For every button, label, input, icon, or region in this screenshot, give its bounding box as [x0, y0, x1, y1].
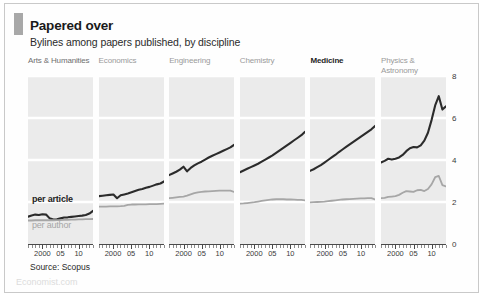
axis-tick — [28, 245, 29, 248]
axis-tick — [205, 245, 206, 248]
axis-tick — [39, 245, 40, 248]
axis-tick — [234, 245, 235, 248]
x-axis: 20000510 — [169, 244, 234, 264]
y-axis: 02468 — [449, 56, 479, 266]
axis-tick — [354, 245, 355, 248]
axis-tick — [153, 245, 154, 248]
axis-tick — [173, 245, 174, 248]
x-tick-label: 10 — [216, 249, 224, 258]
x-tick-label: 10 — [357, 249, 365, 258]
panel-engineering: Engineering20000510 — [169, 56, 234, 244]
axis-tick — [243, 245, 244, 248]
axis-tick — [164, 245, 165, 248]
axis-tick — [93, 245, 94, 248]
axis-tick — [417, 245, 418, 248]
panel-economics: Economics20000510 — [99, 56, 164, 244]
axis-tick — [160, 245, 161, 248]
axis-tick — [106, 245, 107, 248]
panel-chemistry: Chemistry20000510 — [240, 56, 305, 244]
plot-area — [240, 76, 305, 244]
axis-tick — [365, 245, 366, 248]
page-title: Papered over — [30, 18, 113, 33]
y-tick-label: 4 — [452, 156, 456, 165]
axis-tick — [102, 245, 103, 248]
axis-tick — [32, 245, 33, 248]
axis-tick — [372, 245, 373, 248]
axis-tick — [117, 245, 118, 248]
axis-tick — [223, 245, 224, 248]
watermark: Economist.com — [16, 277, 78, 287]
series-line-per-author — [169, 191, 234, 199]
axis-tick — [71, 245, 72, 248]
axis-tick — [198, 245, 199, 248]
axis-tick — [146, 245, 147, 248]
x-tick-label: 10 — [427, 249, 435, 258]
plot-area — [310, 76, 375, 244]
axis-tick — [169, 245, 170, 248]
y-tick-label: 8 — [452, 72, 456, 81]
axis-tick — [194, 245, 195, 248]
y-tick-label: 2 — [452, 198, 456, 207]
x-axis: 20000510 — [310, 244, 375, 264]
axis-tick — [156, 245, 157, 248]
axis-tick — [276, 245, 277, 248]
axis-tick — [240, 245, 241, 248]
plot-area — [99, 76, 164, 244]
axis-tick — [89, 245, 90, 248]
axis-tick — [336, 245, 337, 248]
y-tick-label: 6 — [452, 114, 456, 123]
x-tick-label: 05 — [56, 249, 64, 258]
axis-tick — [138, 245, 139, 248]
axis-tick — [258, 245, 259, 248]
x-tick-label: 2000 — [387, 249, 404, 258]
axis-tick — [439, 245, 440, 248]
axis-tick — [347, 245, 348, 248]
axis-tick — [310, 245, 311, 248]
axis-tick — [265, 245, 266, 248]
axis-tick — [385, 245, 386, 248]
axis-tick — [213, 245, 214, 248]
panel-title: Medicine — [310, 56, 382, 66]
axis-tick — [75, 245, 76, 248]
x-tick-label: 05 — [268, 249, 276, 258]
source-note: Source: Scopus — [30, 262, 90, 272]
axis-tick — [64, 245, 65, 248]
axis-tick — [318, 245, 319, 248]
axis-tick — [421, 245, 422, 248]
x-tick-label: 10 — [145, 249, 153, 258]
panel-title: Chemistry — [240, 56, 312, 66]
axis-tick — [392, 245, 393, 248]
axis-tick — [86, 245, 87, 248]
axis-tick — [368, 245, 369, 248]
axis-tick — [294, 245, 295, 248]
chart-figure: Papered over Bylines among papers publis… — [4, 3, 479, 293]
axis-tick — [298, 245, 299, 248]
axis-tick — [142, 245, 143, 248]
axis-tick — [328, 245, 329, 248]
series-line-per-article — [381, 96, 446, 162]
axis-tick — [124, 245, 125, 248]
axis-tick — [53, 245, 54, 248]
plot-area — [28, 76, 93, 244]
plot-area — [169, 76, 234, 244]
axis-tick — [191, 245, 192, 248]
axis-tick — [109, 245, 110, 248]
series-line-per-article — [28, 211, 93, 220]
axis-tick — [410, 245, 411, 248]
axis-tick — [305, 245, 306, 248]
series-line-per-article — [310, 126, 375, 171]
axis-tick — [446, 245, 447, 248]
axis-tick — [332, 245, 333, 248]
axis-tick — [321, 245, 322, 248]
axis-tick — [280, 245, 281, 248]
axis-tick — [283, 245, 284, 248]
axis-tick — [424, 245, 425, 248]
axis-tick — [269, 245, 270, 248]
axis-tick — [209, 245, 210, 248]
axis-tick — [187, 245, 188, 248]
plot-area — [381, 76, 446, 244]
axis-tick — [251, 245, 252, 248]
x-tick-label: 05 — [198, 249, 206, 258]
x-axis: 20000510 — [240, 244, 305, 264]
axis-tick — [399, 245, 400, 248]
